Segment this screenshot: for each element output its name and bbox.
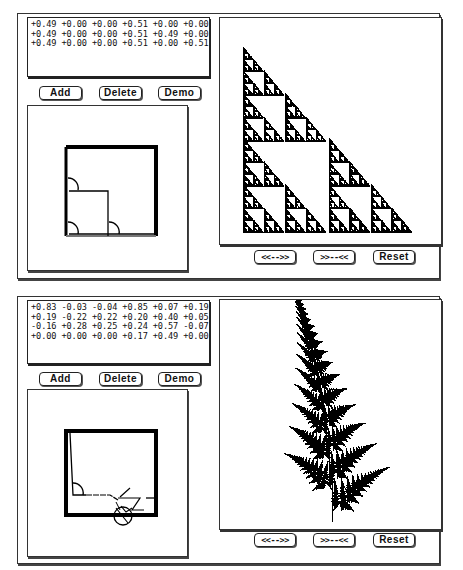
add-button[interactable]: Add: [39, 86, 82, 100]
reset-button[interactable]: Reset: [373, 533, 415, 547]
attractor-display[interactable]: [219, 299, 442, 530]
ifs-window-fern: +0.83 -0.03 -0.04 +0.85 +0.07 +0.19+0.19…: [17, 296, 440, 564]
delete-button[interactable]: Delete: [99, 372, 142, 386]
map-editor-drawing[interactable]: [28, 390, 187, 556]
coefficient-row[interactable]: +0.49 +0.00 +0.00 +0.51 +0.00 +0.51: [31, 39, 206, 49]
coefficient-list[interactable]: +0.49 +0.00 +0.00 +0.51 +0.00 +0.00+0.49…: [27, 17, 210, 77]
add-button[interactable]: Add: [39, 372, 82, 386]
expand-view-button[interactable]: <<-->>: [254, 533, 296, 547]
map-editor-drawing[interactable]: [28, 106, 187, 270]
delete-button[interactable]: Delete: [99, 86, 142, 100]
barnsley-fern-image: [220, 300, 441, 529]
attractor-display[interactable]: [219, 17, 442, 245]
coefficient-list[interactable]: +0.83 -0.03 -0.04 +0.85 +0.07 +0.19+0.19…: [27, 300, 210, 364]
map-editor-canvas[interactable]: [27, 105, 188, 271]
sierpinski-triangle-image: [220, 18, 441, 244]
map-editor-canvas[interactable]: [27, 389, 188, 557]
demo-button[interactable]: Demo: [158, 86, 201, 100]
shrink-view-button[interactable]: >>--<<: [313, 250, 355, 264]
reset-button[interactable]: Reset: [373, 250, 415, 264]
demo-button[interactable]: Demo: [158, 372, 201, 386]
ifs-window-sierpinski: +0.49 +0.00 +0.00 +0.51 +0.00 +0.00+0.49…: [17, 13, 440, 279]
coefficient-row[interactable]: +0.00 +0.00 +0.00 +0.17 +0.49 +0.00: [31, 332, 206, 342]
shrink-view-button[interactable]: >>--<<: [313, 533, 355, 547]
expand-view-button[interactable]: <<-->>: [254, 250, 296, 264]
